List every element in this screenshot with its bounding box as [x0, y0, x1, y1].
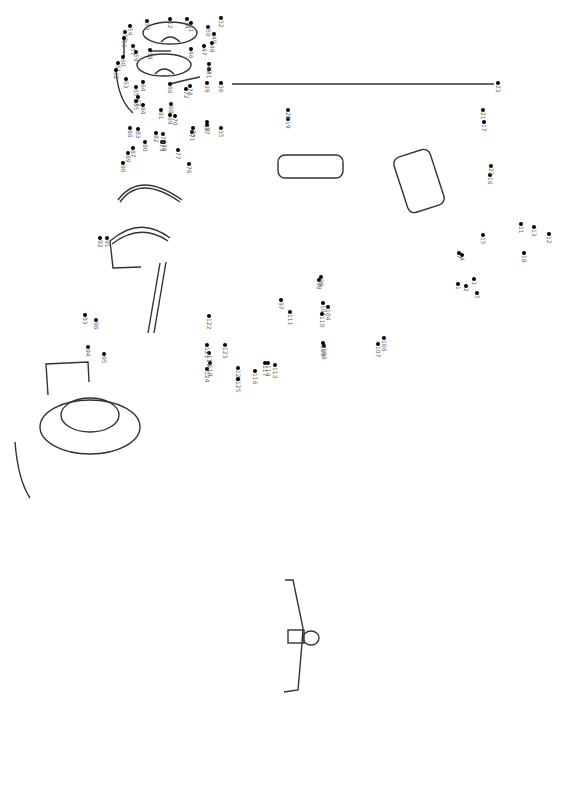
dot-number-label: 113: [272, 367, 278, 378]
dot-number-label: 21: [480, 112, 486, 120]
dot-number-label: 70: [172, 118, 178, 126]
dot-number-label: 20: [285, 112, 291, 120]
dot-number-label: 19: [285, 121, 291, 129]
dot-number-label: 124: [204, 371, 210, 382]
dot-number-label: 3: [471, 281, 477, 285]
dot-number-label: 90: [120, 165, 126, 173]
dot-number-label: 121: [204, 347, 210, 358]
dot-number-label: 109: [320, 345, 326, 356]
dot-number-label: 22: [488, 168, 494, 176]
dot-number-label: 64: [140, 84, 146, 92]
dot-number-label: 15: [480, 237, 486, 245]
dot-number-label: 89: [125, 155, 131, 163]
dot-number-label: 86: [127, 130, 133, 138]
dot-number-label: 53: [144, 23, 150, 31]
dot-number-label: 116: [252, 373, 258, 384]
dot-number-label: 117: [262, 365, 268, 376]
dot-to-dot-puzzle-page: 1234571112131516171819202122233234353637…: [0, 0, 562, 795]
dot-number-label: 16: [487, 177, 493, 185]
dot-number-label: 99: [318, 279, 324, 287]
dot-number-label: 66: [167, 86, 173, 94]
dot-number-label: 74: [187, 88, 193, 96]
dot-number-label: 47: [201, 48, 207, 56]
dot-number-label: 46: [188, 51, 194, 59]
dot-number-label: 107: [375, 346, 381, 357]
dot-number-label: 76: [186, 166, 192, 174]
puzzle-outline-shapes: [0, 0, 562, 795]
dot-number-label: 63: [123, 81, 129, 89]
dot-number-label: 23: [495, 85, 501, 93]
dot-number-label: 122: [206, 318, 212, 329]
dot-number-label: 81: [158, 112, 164, 120]
dot-number-label: 13: [531, 229, 537, 237]
dot-number-label: 83: [135, 131, 141, 139]
dot-number-label: 110: [319, 316, 325, 327]
dot-number-label: 93: [82, 317, 88, 325]
dot-number-label: 80: [142, 144, 148, 152]
dot-number-label: 42: [206, 66, 212, 74]
dot-number-label: 48: [209, 45, 215, 53]
dot-number-label: 58: [147, 52, 153, 60]
dot-number-label: 52: [167, 21, 173, 29]
dot-number-label: 95: [101, 356, 107, 364]
dot-number-label: 111: [287, 314, 293, 325]
dot-number-label: 78: [161, 144, 167, 152]
dot-number-label: 84: [140, 107, 146, 115]
dot-number-label: 62: [113, 72, 119, 80]
dot-number-label: 32: [218, 20, 224, 28]
dot-number-label: 75: [190, 130, 196, 138]
dot-number-label: 56: [121, 40, 127, 48]
dot-number-label: 50: [205, 29, 211, 37]
dot-number-label: 125: [235, 381, 241, 392]
dot-number-label: 18: [521, 255, 527, 263]
dot-number-label: 85: [133, 103, 139, 111]
dot-number-label: 96: [93, 322, 99, 330]
dot-number-label: 12: [546, 236, 552, 244]
dot-number-label: 7: [456, 255, 462, 259]
dot-number-label: 91: [104, 240, 110, 248]
dot-number-label: 38: [204, 124, 210, 132]
dot-number-label: 49: [211, 36, 217, 44]
dot-number-label: 77: [175, 152, 181, 160]
dot-number-label: 17: [481, 124, 487, 132]
dot-number-label: 11: [518, 226, 524, 234]
dot-number-label: 2: [463, 288, 469, 292]
dot-number-label: 35: [218, 130, 224, 138]
dot-number-label: 97: [278, 302, 284, 310]
dot-number-label: 82: [153, 135, 159, 143]
dot-number-label: 5: [474, 295, 480, 299]
dot-number-label: 92: [97, 240, 103, 248]
dot-number-label: 79: [160, 136, 166, 144]
dot-number-label: 39: [204, 85, 210, 93]
dot-number-label: 123: [222, 347, 228, 358]
dot-number-label: 36: [218, 85, 224, 93]
dot-number-label: 59: [133, 54, 139, 62]
dot-number-label: 94: [85, 349, 91, 357]
dot-number-label: 51: [188, 25, 194, 33]
dot-number-label: 1: [455, 286, 461, 290]
